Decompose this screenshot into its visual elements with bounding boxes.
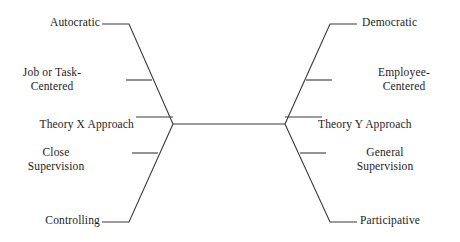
label-theory-y-approach: Theory Y Approach [318,117,460,131]
label-controlling: Controlling [0,213,100,227]
diagram-canvas: Autocratic Job or Task- Centered Theory … [0,0,460,242]
left-lower-arm [102,124,173,222]
label-democratic: Democratic [362,15,460,29]
left-upper-arm [102,24,173,124]
label-theory-x-approach: Theory X Approach [0,117,134,131]
label-employee-centered: Employee- Centered [348,65,460,93]
label-participative: Participative [360,213,460,227]
label-close-supervision: Close Supervision [0,145,112,173]
right-lower-arm [285,124,357,222]
label-job-or-task-centered: Job or Task- Centered [0,65,104,93]
label-autocratic: Autocratic [0,15,100,29]
right-upper-arm [285,24,357,124]
label-general-supervision: General Supervision [330,145,440,173]
